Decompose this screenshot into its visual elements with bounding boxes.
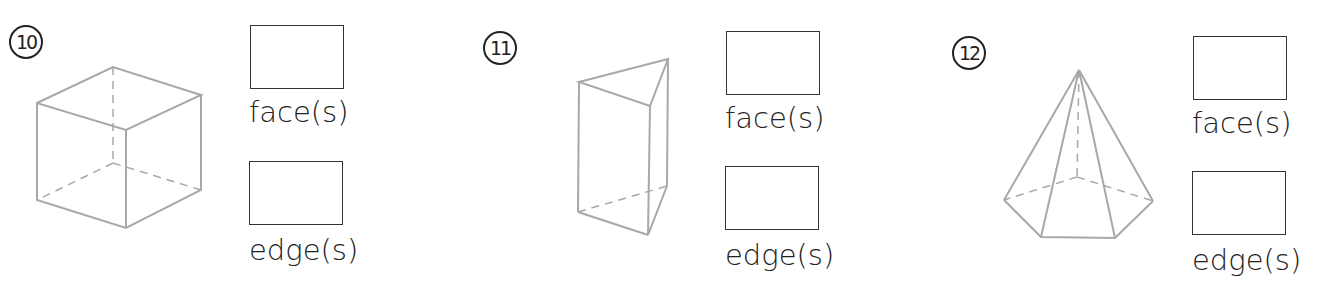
faces-answer-box-12[interactable]	[1193, 36, 1287, 100]
edges-label-12: edge(s)	[1192, 246, 1301, 275]
pentagonal-pyramid-icon	[1004, 70, 1153, 238]
faces-label-12: face(s)	[1192, 109, 1292, 138]
edges-answer-box-11[interactable]	[725, 166, 819, 230]
cube-icon	[37, 67, 201, 228]
shape-drawings	[0, 0, 1325, 296]
edges-answer-box-10[interactable]	[249, 161, 343, 225]
edges-label-10: edge(s)	[249, 236, 358, 265]
problem-number-10: 10	[9, 25, 43, 59]
edges-answer-box-12[interactable]	[1192, 171, 1286, 235]
triangular-prism-icon	[578, 59, 668, 235]
faces-answer-box-10[interactable]	[250, 25, 344, 89]
problem-number-12: 12	[952, 36, 986, 70]
faces-answer-box-11[interactable]	[726, 31, 820, 95]
faces-label-11: face(s)	[725, 104, 825, 133]
edges-label-11: edge(s)	[725, 241, 834, 270]
faces-label-10: face(s)	[249, 98, 349, 127]
problem-number-11: 11	[483, 31, 517, 65]
